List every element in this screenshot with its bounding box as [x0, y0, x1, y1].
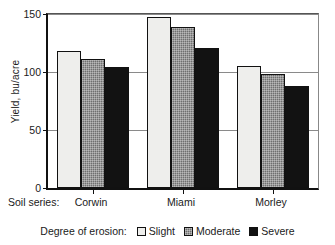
legend: Degree of erosion: Slight Moderate Sever… — [0, 222, 335, 240]
legend-item-slight: Slight — [137, 225, 175, 237]
bar-morley-moderate — [261, 74, 285, 188]
tickmark-0 — [43, 188, 48, 189]
legend-title: Degree of erosion: — [40, 225, 126, 237]
bar-corwin-severe — [105, 67, 129, 188]
legend-label-moderate: Moderate — [196, 225, 240, 237]
y-tick-label-100: 100 — [23, 66, 41, 78]
x-category-label-miami: Miami — [167, 196, 195, 208]
legend-swatch-slight-icon — [137, 227, 146, 236]
y-tick-label-150: 150 — [23, 8, 41, 20]
bars-layer — [48, 14, 318, 188]
x-tick-morley — [273, 188, 274, 194]
x-category-label-morley: Morley — [255, 196, 287, 208]
bar-miami-severe — [195, 48, 219, 188]
legend-label-severe: Severe — [261, 225, 294, 237]
plot-area: 150 100 50 0 — [46, 13, 319, 190]
legend-swatch-severe-icon — [249, 227, 258, 236]
x-category-label-corwin: Corwin — [75, 196, 108, 208]
x-axis-category-row: Soil series: Corwin Miami Morley — [0, 196, 335, 214]
y-tick-label-50: 50 — [29, 124, 41, 136]
bar-morley-slight — [237, 66, 261, 188]
y-tick-label-0: 0 — [35, 182, 41, 194]
bar-corwin-slight — [57, 51, 81, 188]
legend-swatch-moderate-icon — [184, 227, 193, 236]
x-tick-miami — [183, 188, 184, 194]
bar-miami-moderate — [171, 27, 195, 188]
bar-miami-slight — [147, 17, 171, 188]
y-axis-title: Yield, bu/acre — [10, 32, 21, 152]
x-axis-prefix-label: Soil series: — [8, 196, 59, 208]
x-tick-corwin — [93, 188, 94, 194]
bar-chart-figure: Yield, bu/acre 150 100 50 0 Soil s — [0, 0, 335, 245]
bar-morley-severe — [285, 86, 309, 188]
legend-item-moderate: Moderate — [184, 225, 240, 237]
bar-corwin-moderate — [81, 59, 105, 188]
legend-item-severe: Severe — [249, 225, 294, 237]
legend-label-slight: Slight — [149, 225, 175, 237]
